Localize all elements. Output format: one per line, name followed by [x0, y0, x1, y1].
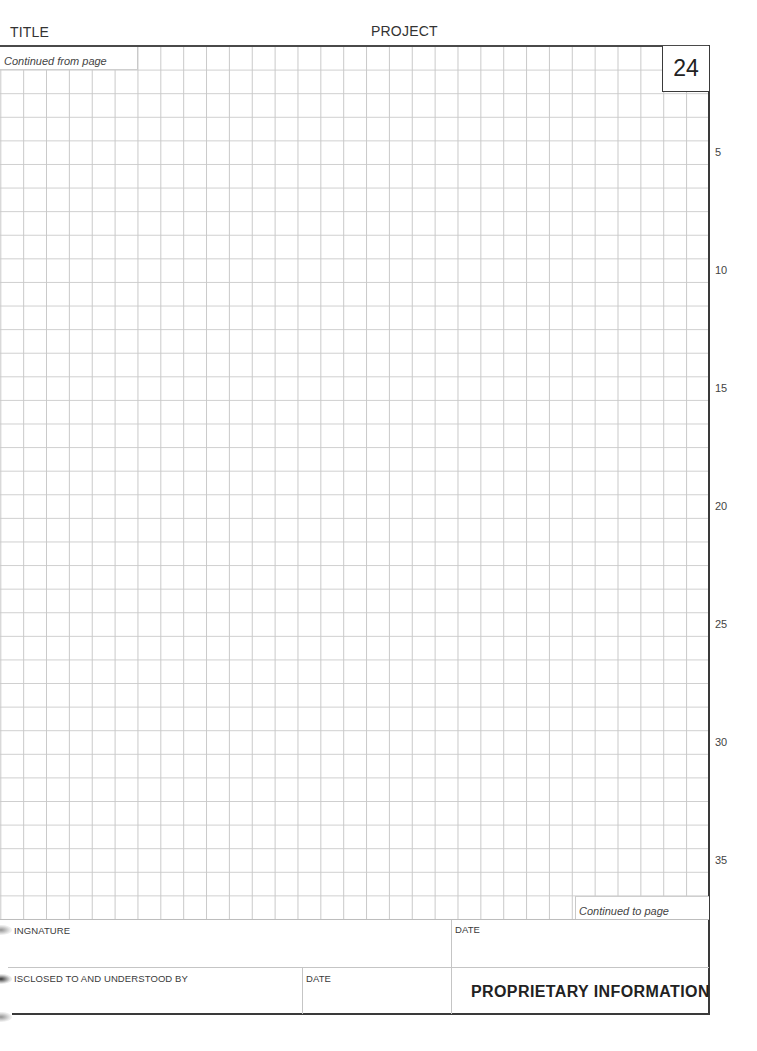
signature-field[interactable]	[8, 920, 450, 966]
line-number-10: 10	[715, 264, 727, 276]
continued-to-page-label: Continued to page	[579, 905, 669, 917]
proprietary-information-label: PROPRIETARY INFORMATION	[471, 983, 710, 1001]
footer-bottom-border	[12, 1013, 710, 1015]
line-number-5: 5	[715, 146, 721, 158]
page-number-box: 24	[662, 46, 709, 92]
continued-from-page-label: Continued from page	[4, 55, 107, 67]
title-label: TITLE	[10, 24, 49, 40]
grid-right-border	[708, 45, 710, 1015]
signature-date-field[interactable]	[452, 920, 708, 966]
line-number-30: 30	[715, 736, 727, 748]
line-number-20: 20	[715, 500, 727, 512]
binding-shadow	[0, 1012, 12, 1022]
disclosed-to-field[interactable]	[8, 968, 301, 1013]
line-number-15: 15	[715, 382, 727, 394]
disclosed-date-field[interactable]	[303, 968, 450, 1013]
project-label: PROJECT	[371, 23, 438, 39]
graph-paper-grid[interactable]	[0, 46, 709, 919]
line-number-35: 35	[715, 854, 727, 866]
line-number-25: 25	[715, 618, 727, 630]
